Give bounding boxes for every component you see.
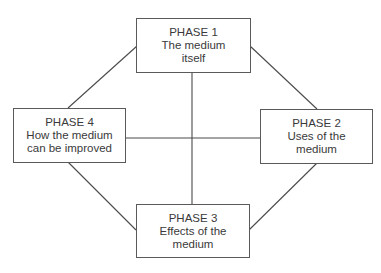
phase-3-title: PHASE 3 bbox=[169, 212, 218, 225]
phase-4-line2: can be improved bbox=[27, 142, 112, 155]
phase-4-line1: How the medium bbox=[26, 129, 112, 142]
phase-1-line2: itself bbox=[182, 52, 206, 65]
phase-diagram: PHASE 1 The medium itself PHASE 2 Uses o… bbox=[0, 0, 381, 273]
connector-phase1-phase2 bbox=[250, 46, 317, 109]
phase-2-title: PHASE 2 bbox=[292, 117, 341, 130]
phase-3-line2: medium bbox=[173, 238, 214, 251]
phase-3-box: PHASE 3 Effects of the medium bbox=[136, 204, 250, 258]
phase-4-title: PHASE 4 bbox=[45, 116, 94, 129]
phase-2-line1: Uses of the bbox=[287, 130, 345, 143]
phase-3-line1: Effects of the bbox=[160, 225, 227, 238]
phase-2-line2: medium bbox=[296, 143, 337, 156]
phase-1-title: PHASE 1 bbox=[169, 26, 218, 39]
phase-4-box: PHASE 4 How the medium can be improved bbox=[13, 108, 126, 163]
phase-1-box: PHASE 1 The medium itself bbox=[136, 18, 251, 73]
connector-phase2-phase3 bbox=[249, 163, 317, 230]
phase-2-box: PHASE 2 Uses of the medium bbox=[260, 109, 373, 164]
connector-phase1-phase4 bbox=[68, 46, 137, 108]
connector-phase4-phase3 bbox=[68, 162, 136, 230]
phase-1-line1: The medium bbox=[162, 39, 226, 52]
